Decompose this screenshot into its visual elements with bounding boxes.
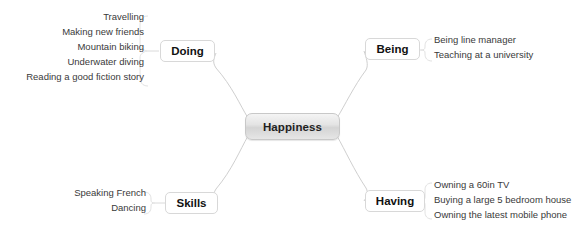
leaf-item[interactable]: Buying a large 5 bedroom house [434, 192, 571, 207]
branch-node-being[interactable]: Being [365, 38, 420, 60]
leaf-group-skills: Speaking French Dancing [74, 185, 146, 215]
connector-being-bracket [421, 39, 432, 61]
leaf-group-being: Being line manager Teaching at a univers… [434, 32, 533, 62]
branch-node-skills-label: Skills [176, 197, 206, 209]
branch-node-having-label: Having [376, 195, 414, 207]
leaf-item[interactable]: Owning a 60in TV [434, 177, 509, 192]
branch-node-having[interactable]: Having [365, 190, 425, 212]
leaf-item[interactable]: Being line manager [434, 32, 516, 47]
connector-center-doing [214, 53, 248, 118]
central-node-happiness[interactable]: Happiness [245, 113, 340, 140]
leaf-item[interactable]: Teaching at a university [434, 47, 533, 62]
central-node-label: Happiness [263, 121, 322, 133]
branch-node-being-label: Being [377, 43, 409, 55]
branch-node-doing-label: Doing [171, 45, 204, 57]
branch-node-doing[interactable]: Doing [160, 40, 215, 62]
leaf-group-doing: Travelling Making new friends Mountain b… [26, 9, 144, 84]
leaf-item[interactable]: Speaking French [74, 185, 146, 200]
leaf-item[interactable]: Owning the latest mobile phone [434, 207, 567, 222]
connector-center-skills [214, 136, 248, 203]
leaf-item[interactable]: Dancing [111, 200, 146, 215]
branch-node-skills[interactable]: Skills [165, 192, 218, 214]
connector-center-being [337, 51, 367, 118]
leaf-item[interactable]: Mountain biking [77, 39, 144, 54]
leaf-item[interactable]: Travelling [103, 9, 144, 24]
leaf-item[interactable]: Reading a good fiction story [26, 69, 144, 84]
mind-map-canvas: Happiness Doing Travelling Making new fr… [0, 0, 588, 231]
connector-center-having [337, 136, 367, 201]
leaf-item[interactable]: Making new friends [62, 24, 144, 39]
leaf-group-having: Owning a 60in TV Buying a large 5 bedroo… [434, 177, 571, 222]
leaf-item[interactable]: Underwater diving [67, 54, 144, 69]
